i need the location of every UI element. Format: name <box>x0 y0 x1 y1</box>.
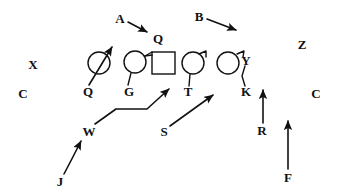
player-square-center <box>152 52 175 74</box>
label-x: X <box>28 58 37 71</box>
label-q-top: Q <box>153 32 163 45</box>
label-r: R <box>257 124 266 137</box>
label-j: J <box>57 175 64 188</box>
label-a: A <box>115 12 124 25</box>
player-stems-group <box>128 51 245 86</box>
player-circle-t <box>182 52 204 74</box>
label-t-line: T <box>184 85 193 98</box>
label-q-line: Q <box>83 85 93 98</box>
route-b-arrow <box>207 19 236 30</box>
label-z: Z <box>298 38 307 51</box>
label-f: F <box>284 171 292 184</box>
routes-group <box>64 19 288 174</box>
label-y: Y <box>241 54 250 67</box>
player-circle-k <box>217 52 239 74</box>
label-b: B <box>195 10 204 23</box>
player-circle-g <box>124 51 146 73</box>
play-diagram-canvas <box>0 0 337 195</box>
label-g-line: G <box>124 85 134 98</box>
label-c-left: C <box>18 87 27 100</box>
offensive-line-group <box>88 51 239 74</box>
label-w: W <box>83 125 96 138</box>
route-s-arrow <box>170 95 213 126</box>
route-j-arrow <box>64 141 81 174</box>
hook-t-icon <box>199 51 206 57</box>
play-diagram: A B Q Z X C C Y Q G T K W S R J F <box>0 0 337 195</box>
label-c-right: C <box>311 87 320 100</box>
label-s: S <box>160 125 167 138</box>
route-a-arrow <box>128 22 147 32</box>
label-k-line: K <box>241 85 251 98</box>
